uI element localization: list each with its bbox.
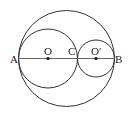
label-a: A xyxy=(10,53,18,65)
point-o-prime xyxy=(94,57,97,60)
label-o: O xyxy=(44,45,52,57)
geometry-diagram: A O C O′ B xyxy=(0,0,129,116)
label-b: B xyxy=(115,53,122,65)
label-o-prime: O′ xyxy=(91,45,101,57)
point-o xyxy=(46,57,49,60)
label-c: C xyxy=(68,45,75,57)
